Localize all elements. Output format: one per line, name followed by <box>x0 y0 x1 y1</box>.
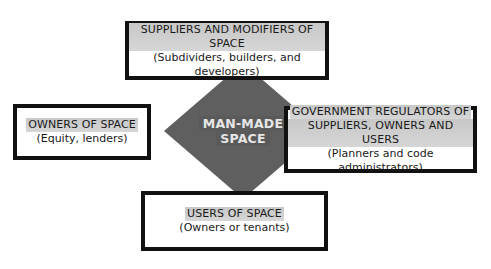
suppliers-title: SUPPLIERS AND MODIFIERS OF SPACE <box>129 23 325 51</box>
owners-box: OWNERS OF SPACE (Equity, lenders) <box>13 104 151 160</box>
government-title-line2: SUPPLIERS, OWNERS AND USERS <box>288 119 473 147</box>
owners-title: OWNERS OF SPACE <box>26 118 138 132</box>
diamond-label-line2: SPACE <box>216 131 269 146</box>
government-regulators-box: GOVERNMENT REGULATORS OF SUPPLIERS, OWNE… <box>284 106 477 173</box>
suppliers-subtitle: (Subdividers, builders, and developers) <box>129 51 325 79</box>
users-title: USERS OF SPACE <box>185 207 284 221</box>
government-title-line1: GOVERNMENT REGULATORS OF <box>290 105 471 119</box>
government-subtitle: (Planners and code administrators) <box>288 147 473 175</box>
users-box: USERS OF SPACE (Owners or tenants) <box>141 191 328 251</box>
suppliers-box: SUPPLIERS AND MODIFIERS OF SPACE (Subdiv… <box>125 21 329 80</box>
users-subtitle: (Owners or tenants) <box>177 221 291 235</box>
diamond-label-line1: MAN-MADE <box>199 116 287 131</box>
owners-subtitle: (Equity, lenders) <box>34 132 129 146</box>
